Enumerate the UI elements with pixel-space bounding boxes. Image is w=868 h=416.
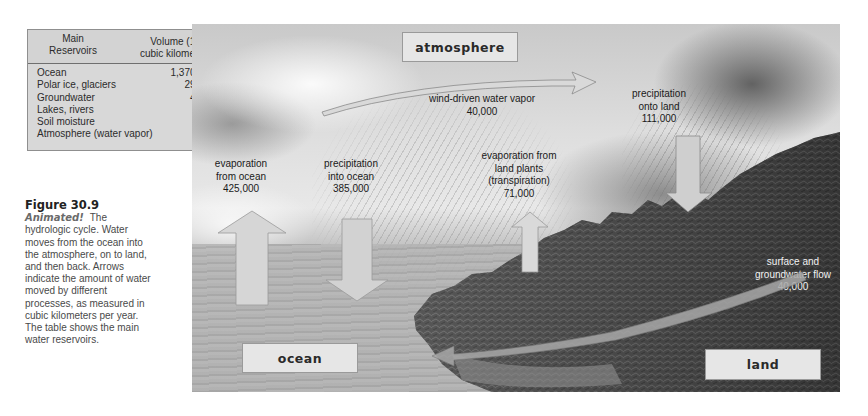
header-reservoirs: Main Reservoirs bbox=[38, 33, 108, 60]
hydrologic-cycle-illustration: atmosphere wind-driven water vapor 40,00… bbox=[192, 24, 840, 392]
table-row: Polar ice, glaciers29,000 bbox=[37, 79, 215, 91]
reservoir-name: Polar ice, glaciers bbox=[37, 79, 116, 91]
ocean-label: ocean bbox=[278, 351, 322, 366]
table-row: Groundwater4,000 bbox=[37, 92, 215, 104]
caption-text: The hydrologic cycle. Water moves from t… bbox=[25, 212, 151, 345]
table-row: Ocean1,370,000 bbox=[37, 67, 215, 79]
figure-number: Figure 30.9 bbox=[25, 199, 153, 211]
table-row: Soil moisture67 bbox=[37, 116, 215, 128]
ocean-box: ocean bbox=[242, 343, 358, 373]
table-row: Atmosphere (water vapor)14 bbox=[37, 128, 215, 140]
animated-label: Animated! bbox=[25, 212, 84, 223]
table-row: Lakes, rivers230 bbox=[37, 104, 215, 116]
reservoir-name: Atmosphere (water vapor) bbox=[37, 128, 153, 140]
surface-flow-arrow-icon bbox=[192, 24, 840, 392]
reservoir-name: Soil moisture bbox=[37, 116, 95, 128]
land-label: land bbox=[747, 357, 780, 372]
reservoir-name: Ocean bbox=[37, 67, 66, 79]
land-box: land bbox=[705, 349, 821, 380]
header-text: Main bbox=[38, 33, 108, 45]
reservoir-name: Lakes, rivers bbox=[37, 104, 94, 116]
figure-caption: Figure 30.9 Animated!The hydrologic cycl… bbox=[25, 199, 153, 346]
header-text: Reservoirs bbox=[38, 45, 108, 57]
reservoir-name: Groundwater bbox=[37, 92, 95, 104]
